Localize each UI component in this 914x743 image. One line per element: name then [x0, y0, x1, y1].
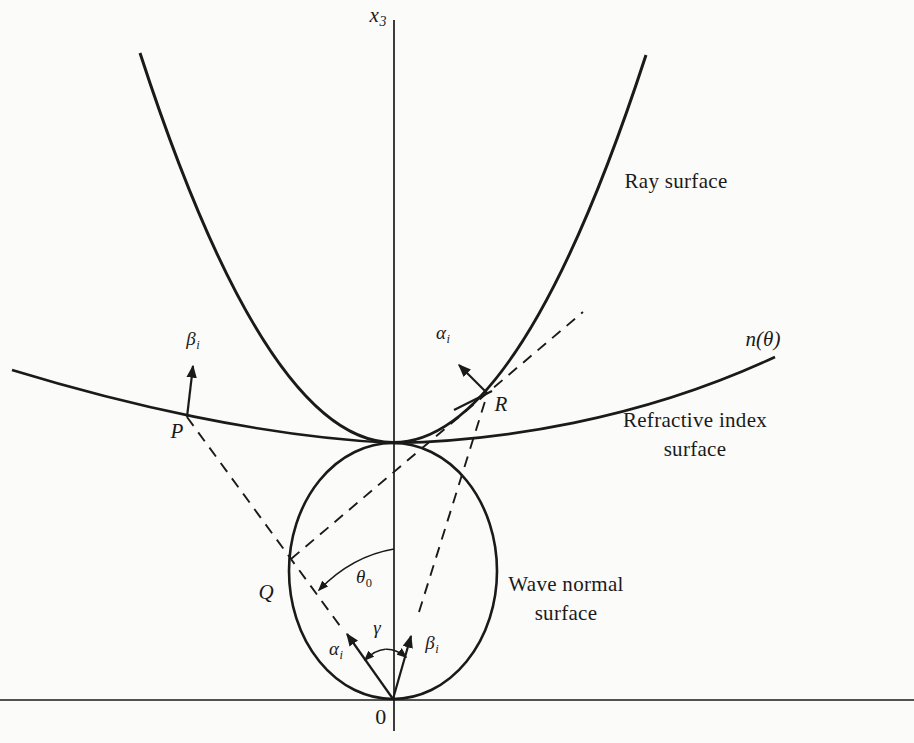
- x3-axis-label: x3: [370, 2, 387, 30]
- beta-subscript: i: [196, 337, 199, 351]
- beta-i-label-at-P: βi: [186, 327, 199, 353]
- theta0-angle-label: θ0: [356, 565, 372, 591]
- theta-base: θ: [356, 566, 365, 587]
- beta-subscript: i: [435, 641, 438, 655]
- refractive-label-line1: Refractive index: [623, 406, 767, 435]
- refractive-index-surface-label: Refractive index surface: [623, 406, 767, 464]
- alpha-base: α: [436, 322, 446, 343]
- wave-label-line1: Wave normal: [508, 570, 623, 599]
- dashed-line-origin-to-R: [419, 395, 487, 612]
- x3-subscript: 3: [379, 14, 386, 29]
- gamma-angle-label: γ: [373, 616, 381, 640]
- figure-canvas: x3 Ray surface n(θ) Refractive index sur…: [0, 0, 914, 743]
- point-R-label: R: [495, 391, 508, 417]
- x3-base: x: [370, 3, 379, 27]
- alpha-base: α: [329, 638, 339, 659]
- beta-vector-at-origin: [393, 636, 411, 699]
- ray-surface-curve: [140, 53, 646, 443]
- beta-vector-at-P: [187, 366, 193, 417]
- theta-subscript: 0: [366, 575, 372, 589]
- alpha-vector-at-R: [459, 365, 487, 393]
- tangent-segment-at-R: [454, 391, 492, 410]
- alpha-i-label-at-R: αi: [436, 321, 450, 347]
- beta-i-label-at-origin: βi: [425, 631, 438, 657]
- alpha-subscript: i: [340, 647, 343, 661]
- beta-base: β: [186, 328, 195, 349]
- wave-normal-surface-ellipse: [289, 443, 497, 699]
- refractive-label-line2: surface: [623, 435, 767, 464]
- wave-normal-surface-label: Wave normal surface: [508, 570, 623, 628]
- gamma-angle-arc-left: [365, 649, 385, 660]
- ray-surface-label: Ray surface: [625, 168, 728, 194]
- origin-label: 0: [375, 703, 386, 731]
- beta-base: β: [425, 632, 434, 653]
- diagram-artwork: [0, 0, 914, 743]
- alpha-subscript: i: [447, 331, 450, 345]
- point-P-label: P: [171, 418, 184, 444]
- wave-label-line2: surface: [508, 599, 623, 628]
- gamma-angle-arc-right: [385, 649, 406, 657]
- point-Q-label: Q: [258, 579, 273, 605]
- alpha-i-label-at-origin: αi: [329, 637, 343, 663]
- dashed-line-Q-through-R: [291, 312, 583, 559]
- n-theta-label: n(θ): [746, 326, 781, 352]
